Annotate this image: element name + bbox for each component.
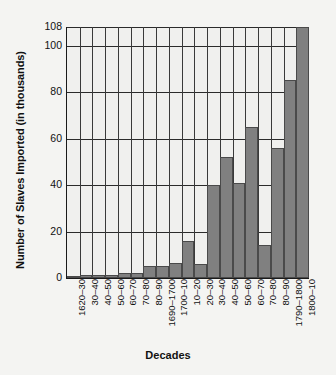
x-tick-label: 1790–1800 [293,279,304,341]
column-separator [143,27,144,278]
x-tick-label: 10–20 [191,279,202,341]
bar[interactable] [92,275,105,278]
bar[interactable] [258,245,271,278]
x-tick-label: 50–60 [115,279,126,341]
y-tick-label: 108 [26,20,62,32]
plot-inner [67,27,309,278]
bar[interactable] [131,273,144,278]
x-tick-label: 70–80 [140,279,151,341]
y-tick-label: 60 [26,132,62,144]
x-tick-label: 70–80 [267,279,278,341]
bar[interactable] [118,273,131,278]
column-separator [156,27,157,278]
column-separator [80,27,81,278]
column-separator [131,27,132,278]
y-tick-label: 20 [26,225,62,237]
x-tick-label: 80–90 [280,279,291,341]
bar[interactable] [194,264,207,278]
bar[interactable] [169,263,182,278]
x-tick-label: 40–50 [102,279,113,341]
x-tick-label: 40–50 [229,279,240,341]
gridline-108 [67,27,309,28]
x-tick-label: 30–40 [89,279,100,341]
x-tick-label: 30–40 [216,279,227,341]
x-tick-label: 60–70 [127,279,138,341]
bar[interactable] [296,27,309,278]
x-tick-label: 1690–1700 [166,279,177,341]
y-tick-label: 80 [26,85,62,97]
bar[interactable] [105,275,118,278]
x-tick-label: 80–90 [153,279,164,341]
bar[interactable] [182,241,195,278]
column-separator [169,27,170,278]
chart-container: Number of Slaves Imported (in thousands)… [0,0,336,375]
column-separator [92,27,93,278]
bar[interactable] [284,80,297,278]
x-tick-label: 1620–30 [76,279,87,341]
column-separator [118,27,119,278]
y-axis-tick-labels: 020406080100108 [24,0,62,375]
bar[interactable] [156,266,169,278]
gridline-100 [67,46,309,47]
bar[interactable] [233,183,246,278]
bar[interactable] [271,148,284,278]
x-tick-label: 1800–10 [306,279,317,341]
x-axis-title: Decades [0,349,336,361]
bar[interactable] [207,185,220,278]
x-tick-label: 60–70 [255,279,266,341]
bar[interactable] [220,157,233,278]
x-tick-label: 1700–10 [178,279,189,341]
x-tick-label: 20–30 [204,279,215,341]
bar[interactable] [143,266,156,278]
bar[interactable] [80,275,93,278]
x-tick-label: 50–60 [242,279,253,341]
plot-area [66,27,309,279]
gridline-80 [67,92,309,93]
y-tick-label: 100 [26,39,62,51]
column-separator [105,27,106,278]
bar[interactable] [67,276,80,278]
bar[interactable] [245,127,258,278]
y-tick-label: 40 [26,178,62,190]
column-separator [258,27,259,278]
y-tick-label: 0 [26,271,62,283]
column-separator [194,27,195,278]
x-axis-tick-labels: 1620–3030–4040–5050–6060–7070–8080–90169… [66,281,308,343]
gridline-60 [67,139,309,140]
